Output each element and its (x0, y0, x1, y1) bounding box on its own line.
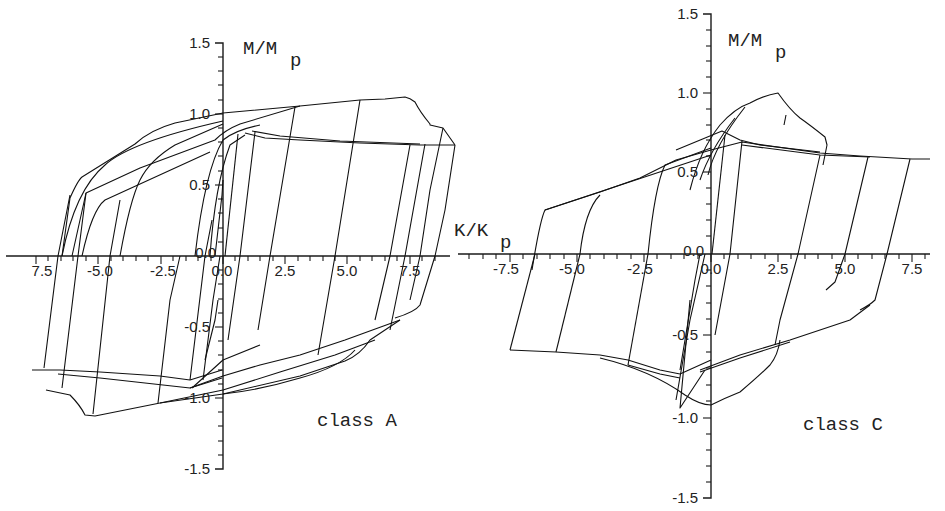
left-xtick-neg5.0: -5.0 (87, 262, 113, 279)
right-ytick-neg0.5: -0.5 (672, 326, 698, 343)
right-ytick-1.5: 1.5 (677, 5, 698, 22)
right-panel: 1.5 1.0 0.5 0.0 -0.5 -1.0 -1.5 -7.5 -5.0… (458, 5, 930, 506)
hysteresis-figure: 1.5 1.0 0.5 0.0 -0.5 -1.0 -1.5 7.5 -5.0 … (0, 0, 945, 511)
right-hysteresis-curves (510, 93, 930, 408)
left-xtick-7.5: 7.5 (400, 262, 421, 279)
left-xtick-0.0: 0.0 (212, 262, 233, 279)
left-panel: 1.5 1.0 0.5 0.0 -0.5 -1.0 -1.5 7.5 -5.0 … (6, 34, 511, 477)
right-y-tick-labels: 1.5 1.0 0.5 0.0 -0.5 -1.0 -1.5 (672, 5, 704, 506)
left-x-tick-labels: 7.5 -5.0 -2.5 0.0 2.5 5.0 7.5 (32, 262, 421, 279)
left-xtick-neg2.5: -2.5 (150, 262, 176, 279)
class-c-label: class C (803, 414, 883, 436)
right-ytick-neg1.0: -1.0 (672, 409, 698, 426)
x-axis-title: K/K p (454, 220, 511, 254)
svg-text:M/M: M/M (243, 38, 277, 60)
left-ytick-1.5: 1.5 (189, 34, 210, 51)
right-ytick-0.0: 0.0 (683, 242, 704, 259)
right-xtick-0.0: 0.0 (701, 260, 722, 277)
right-xtick-neg5.0: -5.0 (559, 260, 585, 277)
left-ytick-neg1.0: -1.0 (184, 389, 210, 406)
svg-text:p: p (500, 232, 511, 254)
svg-text:M/M: M/M (728, 30, 762, 52)
left-ytick-0.5: 0.5 (189, 176, 210, 193)
left-xtick-5.0: 5.0 (337, 262, 358, 279)
class-a-label: class A (317, 410, 397, 432)
left-xtick-2.5: 2.5 (275, 262, 296, 279)
svg-text:p: p (775, 42, 786, 64)
left-ytick-1.0: 1.0 (189, 105, 210, 122)
right-ytick-neg1.5: -1.5 (672, 489, 698, 506)
right-xtick-7.5: 7.5 (902, 260, 923, 277)
left-ytick-neg1.5: -1.5 (184, 460, 210, 477)
left-y-axis-title: M/M p (243, 38, 301, 72)
left-ytick-neg0.5: -0.5 (184, 318, 210, 335)
right-xtick-5.0: 5.0 (835, 260, 856, 277)
svg-text:K/K: K/K (454, 220, 489, 242)
right-ytick-0.5: 0.5 (677, 163, 698, 180)
right-xtick-neg7.5: -7.5 (493, 260, 519, 277)
right-x-tick-labels: -7.5 -5.0 -2.5 0.0 2.5 5.0 7.5 (493, 260, 922, 277)
right-xtick-2.5: 2.5 (768, 260, 789, 277)
left-xtick-neg7.5: 7.5 (32, 262, 53, 279)
right-xtick-neg2.5: -2.5 (627, 260, 653, 277)
left-ytick-0.0: 0.0 (195, 244, 216, 261)
svg-text:p: p (290, 50, 301, 72)
right-ytick-1.0: 1.0 (677, 84, 698, 101)
right-y-axis-title: M/M p (728, 30, 786, 64)
